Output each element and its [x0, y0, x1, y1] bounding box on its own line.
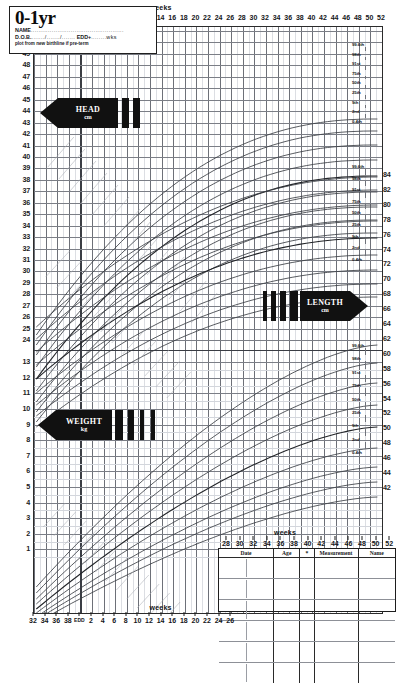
y-tick-length: 52 [383, 408, 391, 417]
y-tick-weight: 7 [26, 450, 30, 459]
edd-dots: ........wks [91, 34, 117, 40]
column-header-measurement: Measurement [314, 549, 358, 558]
percentile-connector [365, 204, 366, 210]
name-field-row[interactable]: NAME....................................… [15, 27, 151, 34]
weight-arrow-label: WEIGHT [66, 418, 102, 426]
percentile-connector [365, 66, 366, 70]
cell-star[interactable] [300, 642, 314, 663]
percentile-label: 91st [352, 187, 360, 192]
cell-measurement-value [316, 632, 318, 637]
cell-name[interactable] [358, 558, 395, 579]
cell-name-value [360, 632, 362, 637]
preterm-note: plot from new birthline if pre-term [15, 41, 151, 47]
x-tickmark-table [375, 536, 376, 540]
table-row[interactable] [219, 558, 395, 579]
cell-name[interactable] [358, 579, 395, 600]
percentile-connector [365, 250, 366, 256]
weeks-label-table: weeks [274, 529, 296, 536]
y-tick-head: 43 [22, 117, 30, 126]
length-bar-1 [263, 291, 267, 321]
cell-date[interactable] [219, 642, 274, 663]
percentile-label: 50th [352, 80, 361, 85]
cell-measurement[interactable] [314, 579, 358, 600]
head-arrow-unit: cm [84, 114, 92, 121]
y-tick-length: 82 [383, 184, 391, 193]
y-tick-weight: 11 [23, 388, 30, 397]
cell-measurement[interactable] [314, 558, 358, 579]
table-row[interactable] [219, 642, 395, 663]
percentile-connector [365, 76, 366, 80]
y-tick-length: 60 [383, 348, 391, 357]
head-percentile-curve [36, 160, 377, 367]
cell-age-value [275, 674, 277, 679]
preterm-reference-line [43, 503, 65, 527]
x-tick-top: 32 [261, 14, 269, 21]
name-label: NAME [15, 27, 31, 33]
table-top-x-axis: 28303234363840424446485052 [218, 536, 398, 548]
y-tick-length: 58 [383, 363, 391, 372]
cell-star[interactable] [300, 579, 314, 600]
cell-star[interactable] [300, 663, 314, 683]
x-tick-bottom: 34 [41, 617, 49, 624]
x-tickmark [183, 612, 184, 616]
y-tick-length: 68 [383, 289, 391, 298]
cell-measurement[interactable] [314, 642, 358, 663]
column-header-star: * [300, 549, 314, 558]
cell-age[interactable] [274, 642, 300, 663]
cell-name-value [360, 653, 362, 658]
y-tick-weight: 9 [26, 419, 30, 428]
y-tick-weight: 5 [26, 481, 30, 490]
y-tick-length: 44 [383, 468, 391, 477]
cell-date[interactable] [219, 579, 274, 600]
x-tickmark [172, 612, 173, 616]
percentile-connector [365, 428, 366, 435]
cell-age[interactable] [274, 558, 300, 579]
percentile-connector [365, 95, 366, 99]
x-tick-table: 30 [236, 540, 244, 547]
table-row[interactable] [219, 663, 395, 683]
x-tick-bottom: 18 [180, 617, 188, 624]
cell-age[interactable] [274, 663, 300, 683]
cell-date-value [220, 653, 222, 658]
cell-star[interactable] [300, 558, 314, 579]
x-tickmark [137, 612, 138, 616]
x-tick-top: 26 [226, 14, 234, 21]
x-tickmark-table [362, 536, 363, 540]
y-tick-head: 29 [22, 277, 30, 286]
cell-measurement-value [316, 569, 318, 574]
weight-bar-3 [140, 410, 144, 440]
x-tick-top: 24 [215, 14, 223, 21]
table-row[interactable] [219, 579, 395, 600]
cell-date[interactable] [219, 558, 274, 579]
y-tick-weight: 4 [26, 497, 30, 506]
x-tick-top: 30 [249, 14, 257, 21]
cell-measurement[interactable] [314, 663, 358, 683]
cell-name[interactable] [358, 663, 395, 683]
cell-date[interactable] [219, 663, 274, 683]
x-tick-bottom: 2 [89, 617, 93, 624]
percentile-label: 98th [352, 356, 361, 361]
dob-field-row[interactable]: D.O.B......../......./....... EDD+......… [15, 34, 151, 41]
percentile-connector [365, 181, 366, 187]
cell-age-value [275, 653, 277, 658]
head-bar-1 [122, 98, 129, 128]
y-tick-head: 30 [22, 266, 30, 275]
percentile-label: 9th [352, 423, 358, 428]
page-title: 0-1yr [15, 8, 151, 27]
y-tick-length: 84 [383, 170, 391, 179]
cell-name-value [360, 674, 362, 679]
x-tickmark [33, 612, 34, 616]
y-tick-length: 74 [383, 244, 391, 253]
percentile-label: 99.6th [352, 343, 364, 348]
weight-arrow-body: WEIGHT kg [56, 410, 112, 440]
preterm-reference-line [103, 197, 129, 227]
x-tick-top: 44 [331, 14, 339, 21]
cell-date-value [220, 590, 222, 595]
cell-name[interactable] [358, 642, 395, 663]
cell-age[interactable] [274, 579, 300, 600]
cell-star-value [301, 569, 303, 574]
x-tickmark [91, 612, 92, 616]
measurement-table[interactable]: Date Age * Measurement Name [218, 548, 396, 612]
percentile-label: 2nd [352, 245, 360, 250]
x-tick-table: 34 [263, 540, 271, 547]
